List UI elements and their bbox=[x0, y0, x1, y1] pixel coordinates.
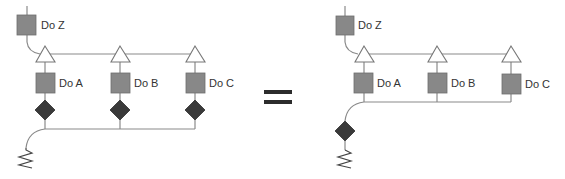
left-decision-b-icon bbox=[110, 100, 130, 120]
left-task-z-label: Do Z bbox=[41, 19, 65, 31]
right-diagram: Do Z Do A Do B Do C bbox=[335, 6, 550, 168]
left-task-z bbox=[17, 15, 36, 35]
equivalence-diagram: Do Z Do A Do B Do C Do bbox=[0, 0, 565, 179]
right-task-z-label: Do Z bbox=[358, 19, 382, 31]
right-zigzag-terminator-icon bbox=[338, 150, 351, 168]
left-task-b bbox=[111, 73, 130, 93]
left-zigzag-terminator-icon bbox=[19, 148, 32, 168]
left-decision-a-icon bbox=[35, 100, 55, 120]
left-z-to-fork-wire bbox=[27, 35, 40, 54]
right-task-b-label: Do B bbox=[451, 77, 475, 89]
right-task-c bbox=[502, 74, 521, 94]
left-exit-wire bbox=[26, 129, 45, 148]
right-task-b bbox=[428, 73, 447, 93]
left-diagram: Do Z Do A Do B Do C bbox=[17, 6, 234, 168]
right-decision-icon bbox=[335, 121, 355, 141]
left-decision-c-icon bbox=[185, 100, 205, 120]
right-z-to-fork-wire bbox=[345, 35, 358, 54]
left-task-c-label: Do C bbox=[209, 77, 234, 89]
right-task-c-label: Do C bbox=[525, 78, 550, 90]
right-task-a-label: Do A bbox=[377, 77, 402, 89]
left-task-c bbox=[186, 73, 205, 93]
left-task-b-label: Do B bbox=[134, 77, 158, 89]
right-task-a bbox=[354, 73, 373, 93]
equals-sign-icon bbox=[264, 90, 292, 104]
right-to-decision-wire bbox=[345, 102, 364, 121]
right-task-z bbox=[336, 16, 354, 35]
left-task-a-label: Do A bbox=[59, 77, 84, 89]
left-task-a bbox=[36, 73, 55, 93]
